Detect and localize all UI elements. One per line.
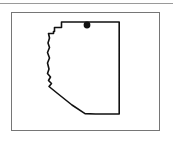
screenshot-root: Arizona Outline map of Arizona with a ma… xyxy=(0,0,173,142)
map-figure-frame xyxy=(11,12,160,131)
top-divider-rule xyxy=(0,3,173,4)
